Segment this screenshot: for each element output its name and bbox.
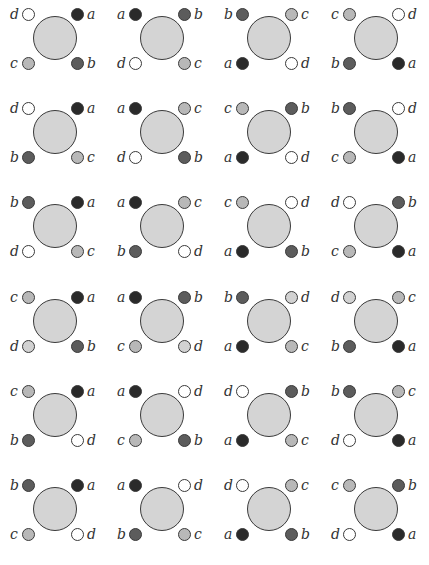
marker-b-circle (71, 57, 84, 70)
corner-br: a (323, 377, 429, 471)
marker-a-circle (392, 245, 405, 258)
marker-a-circle (392, 528, 405, 541)
arrangement-cell: dbac (216, 377, 323, 471)
marker-c-circle (178, 528, 191, 541)
marker-label: c (301, 339, 309, 353)
marker-d-circle (285, 57, 298, 70)
corner-br: c (2, 94, 109, 188)
marker-label: d (301, 150, 310, 164)
arrangement-cell: cabd (2, 377, 109, 471)
marker-c-circle (71, 151, 84, 164)
arrangement-cell: acbd (109, 188, 216, 282)
marker-label: a (408, 150, 416, 164)
corner-br: c (109, 0, 216, 94)
marker-label: b (194, 150, 203, 164)
marker-label: a (408, 527, 416, 541)
marker-a-circle (392, 434, 405, 447)
marker-b-circle (178, 434, 191, 447)
arrangement-cell: abcd (109, 283, 216, 377)
arrangement-cell: cbda (323, 471, 429, 565)
corner-br: b (109, 377, 216, 471)
arrangement-cell: dcab (216, 471, 323, 565)
arrangement-grid: dacbabdcbcadcdbadabcacdbcbadbdcabadcacbd… (0, 0, 429, 565)
marker-label: d (194, 244, 203, 258)
corner-br: c (216, 377, 323, 471)
arrangement-cell: bacd (2, 471, 109, 565)
marker-label: b (301, 527, 310, 541)
corner-br: d (2, 471, 109, 565)
marker-b-circle (285, 528, 298, 541)
marker-label: c (87, 244, 95, 258)
marker-label: a (408, 56, 416, 70)
corner-br: d (2, 377, 109, 471)
marker-d-circle (71, 434, 84, 447)
corner-br: b (109, 94, 216, 188)
corner-br: a (323, 471, 429, 565)
corner-br: d (109, 283, 216, 377)
arrangement-cell: dacb (2, 0, 109, 94)
marker-label: c (87, 150, 95, 164)
marker-d-circle (285, 151, 298, 164)
marker-b-circle (285, 245, 298, 258)
arrangement-cell: adbc (109, 471, 216, 565)
marker-label: d (87, 527, 96, 541)
marker-label: c (194, 56, 202, 70)
arrangement-cell: cdab (216, 188, 323, 282)
marker-label: c (194, 527, 202, 541)
marker-label: d (194, 339, 203, 353)
arrangement-cell: bdac (216, 283, 323, 377)
corner-br: b (2, 283, 109, 377)
corner-br: d (216, 94, 323, 188)
marker-label: d (301, 56, 310, 70)
marker-label: b (87, 339, 96, 353)
marker-d-circle (178, 245, 191, 258)
corner-br: a (323, 188, 429, 282)
arrangement-cell: bdca (323, 94, 429, 188)
marker-a-circle (392, 151, 405, 164)
corner-br: b (216, 188, 323, 282)
marker-label: a (408, 339, 416, 353)
marker-label: d (87, 433, 96, 447)
arrangement-cell: dabc (2, 94, 109, 188)
marker-c-circle (71, 245, 84, 258)
corner-br: b (2, 0, 109, 94)
marker-a-circle (392, 340, 405, 353)
arrangement-cell: badc (2, 188, 109, 282)
arrangement-cell: dcba (323, 283, 429, 377)
corner-br: d (216, 0, 323, 94)
marker-c-circle (285, 434, 298, 447)
corner-br: a (323, 94, 429, 188)
arrangement-cell: cdba (323, 0, 429, 94)
arrangement-cell: bcad (216, 0, 323, 94)
marker-label: b (87, 56, 96, 70)
marker-b-circle (178, 151, 191, 164)
corner-br: c (2, 188, 109, 282)
marker-c-circle (178, 57, 191, 70)
arrangement-cell: dbca (323, 188, 429, 282)
arrangement-cell: cadb (2, 283, 109, 377)
corner-br: b (216, 471, 323, 565)
arrangement-cell: cbad (216, 94, 323, 188)
corner-br: a (323, 0, 429, 94)
marker-label: b (194, 433, 203, 447)
corner-br: a (323, 283, 429, 377)
corner-br: c (216, 283, 323, 377)
corner-br: c (109, 471, 216, 565)
marker-d-circle (71, 528, 84, 541)
arrangement-cell: adcb (109, 377, 216, 471)
arrangement-cell: acdb (109, 94, 216, 188)
marker-b-circle (71, 340, 84, 353)
arrangement-cell: bcda (323, 377, 429, 471)
marker-d-circle (178, 340, 191, 353)
arrangement-cell: abdc (109, 0, 216, 94)
marker-c-circle (285, 340, 298, 353)
marker-label: c (301, 433, 309, 447)
marker-a-circle (392, 57, 405, 70)
marker-label: a (408, 433, 416, 447)
marker-label: a (408, 244, 416, 258)
corner-br: d (109, 188, 216, 282)
marker-label: b (301, 244, 310, 258)
